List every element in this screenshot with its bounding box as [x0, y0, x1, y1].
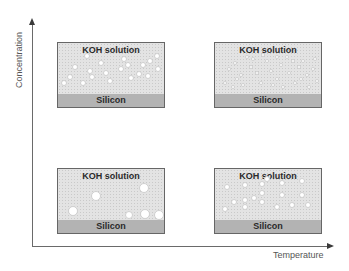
hydrogen-bubble: [91, 191, 101, 201]
hydrogen-bubble: [301, 59, 305, 63]
hydrogen-bubble: [155, 66, 161, 72]
hydrogen-bubble: [275, 55, 279, 59]
hydrogen-bubble: [305, 202, 311, 208]
hydrogen-bubble: [299, 77, 303, 81]
koh-solution-region: KOH solution: [58, 169, 164, 222]
hydrogen-bubble: [89, 74, 95, 80]
hydrogen-bubble: [154, 210, 164, 220]
hydrogen-bubble: [103, 70, 109, 76]
hydrogen-bubble: [242, 204, 248, 210]
hydrogen-bubble: [98, 60, 104, 66]
hydrogen-bubble: [315, 79, 319, 83]
panel-low-temp-high-conc: KOH solution Silicon: [57, 42, 165, 108]
hydrogen-bubble: [233, 61, 237, 65]
hydrogen-bubble: [299, 192, 305, 198]
hydrogen-bubble: [121, 56, 127, 62]
x-axis: [32, 246, 328, 247]
hydrogen-bubble: [61, 80, 67, 86]
silicon-substrate: Silicon: [215, 94, 321, 107]
hydrogen-bubble: [264, 176, 270, 182]
x-axis-label: Temperature: [273, 250, 324, 260]
hydrogen-bubble: [275, 77, 279, 81]
hydrogen-bubble: [125, 62, 131, 68]
hydrogen-bubble: [145, 73, 151, 79]
y-axis-arrow-icon: [29, 18, 35, 25]
hydrogen-bubble: [239, 73, 243, 77]
x-axis-arrow-icon: [327, 243, 334, 249]
hydrogen-bubble: [291, 59, 295, 63]
solution-label: KOH solution: [215, 45, 321, 55]
koh-solution-region: KOH solution: [215, 43, 321, 96]
hydrogen-bubble: [154, 53, 160, 59]
hydrogen-bubble: [140, 209, 150, 219]
hydrogen-bubble: [299, 178, 305, 184]
hydrogen-bubble: [285, 55, 289, 59]
solution-label: KOH solution: [58, 45, 164, 55]
y-axis-label: Concentration: [14, 32, 24, 88]
hydrogen-bubble: [281, 85, 285, 89]
hydrogen-bubble: [140, 62, 146, 68]
hydrogen-bubble: [259, 181, 265, 187]
hydrogen-bubble: [245, 55, 249, 59]
hydrogen-bubble: [235, 77, 239, 81]
hydrogen-bubble: [297, 65, 301, 69]
hydrogen-bubble: [68, 206, 78, 216]
hydrogen-bubble: [84, 53, 90, 59]
hydrogen-bubble: [287, 71, 291, 75]
hydrogen-bubble: [279, 180, 285, 186]
hydrogen-bubble: [241, 83, 245, 87]
hydrogen-bubble: [67, 74, 73, 80]
hydrogen-bubble: [255, 71, 259, 75]
silicon-substrate: Silicon: [58, 220, 164, 233]
hydrogen-bubble: [80, 80, 86, 86]
panel-high-temp-high-conc: KOH solution Silicon: [214, 42, 322, 108]
hydrogen-bubble: [259, 199, 265, 205]
koh-solution-region: KOH solution: [58, 43, 164, 96]
hydrogen-bubble: [271, 83, 275, 87]
hydrogen-bubble: [307, 85, 311, 89]
silicon-substrate: Silicon: [215, 220, 321, 233]
hydrogen-bubble: [242, 182, 248, 188]
hydrogen-bubble: [251, 57, 255, 61]
hydrogen-bubble: [259, 190, 265, 196]
hydrogen-bubble: [265, 59, 269, 63]
hydrogen-bubble: [305, 73, 309, 77]
hydrogen-bubble: [289, 202, 295, 208]
hydrogen-bubble: [279, 192, 285, 198]
panel-low-temp-low-conc: KOH solution Silicon: [57, 168, 165, 234]
solution-label: KOH solution: [58, 171, 164, 181]
hydrogen-bubble: [223, 81, 227, 85]
panel-high-temp-low-conc: KOH solution Silicon: [214, 168, 322, 234]
hydrogen-bubble: [227, 67, 231, 71]
hydrogen-bubble: [231, 199, 237, 205]
hydrogen-bubble: [249, 65, 253, 69]
silicon-substrate: Silicon: [58, 94, 164, 107]
hydrogen-bubble: [125, 211, 133, 219]
hydrogen-bubble: [231, 85, 235, 89]
hydrogen-bubble: [259, 81, 263, 85]
hydrogen-bubble: [293, 81, 297, 85]
y-axis: [32, 24, 33, 247]
hydrogen-bubble: [139, 183, 149, 193]
hydrogen-bubble: [136, 71, 142, 77]
hydrogen-bubble: [261, 53, 265, 57]
hydrogen-bubble: [147, 58, 153, 64]
hydrogen-bubble: [313, 57, 317, 61]
hydrogen-bubble: [128, 75, 134, 81]
hydrogen-bubble: [118, 66, 124, 72]
hydrogen-bubble: [311, 67, 315, 71]
hydrogen-bubble: [274, 204, 280, 210]
hydrogen-bubble: [269, 69, 273, 73]
hydrogen-bubble: [72, 64, 78, 70]
hydrogen-bubble: [279, 63, 283, 67]
hydrogen-bubble: [224, 184, 230, 190]
koh-solution-region: KOH solution: [215, 169, 321, 222]
hydrogen-bubble: [251, 195, 257, 201]
hydrogen-bubble: [242, 197, 248, 203]
hydrogen-bubble: [222, 206, 228, 212]
hydrogen-bubble: [107, 78, 113, 84]
